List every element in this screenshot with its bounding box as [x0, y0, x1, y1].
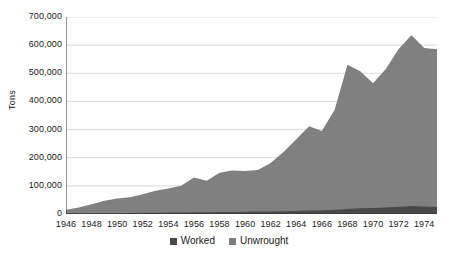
x-axis-tick-labels: 1946194819501952195419561958196019621964…: [66, 219, 437, 233]
legend-item-worked[interactable]: Worked: [170, 236, 215, 246]
legend-swatch-icon: [170, 238, 177, 245]
area-chart: Tons 0100,000200,000300,000400,000500,00…: [0, 0, 458, 258]
y-tick-label: 100,000: [4, 181, 62, 190]
legend-label: Unwrought: [240, 236, 288, 246]
chart-legend: WorkedUnwrought: [0, 236, 458, 246]
y-tick-label: 300,000: [4, 125, 62, 134]
legend-label: Worked: [181, 236, 215, 246]
y-tick-label: 500,000: [4, 68, 62, 77]
y-tick-label: 400,000: [4, 96, 62, 105]
legend-item-unwrought[interactable]: Unwrought: [229, 236, 288, 246]
x-tick-label: 1974: [404, 219, 444, 229]
plot-svg: [66, 17, 437, 214]
y-tick-label: 600,000: [4, 40, 62, 49]
y-tick-label: 700,000: [4, 12, 62, 21]
y-tick-label: 200,000: [4, 153, 62, 162]
y-tick-label: 0: [4, 209, 62, 218]
legend-swatch-icon: [229, 238, 236, 245]
area-series-unwrought: [66, 35, 437, 214]
area-series-layers: [66, 35, 437, 214]
plot-area: [66, 17, 437, 214]
